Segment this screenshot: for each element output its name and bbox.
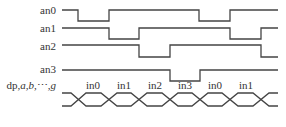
timing-diagram: an0 an1 an2 an3 dp,a,b,⋯,g in0 in1 in2 i… <box>0 0 286 127</box>
bus-label: dp,a,b,⋯,g <box>7 79 57 91</box>
bus-segment-label: in0 <box>208 79 223 91</box>
bus-segment-label: in2 <box>148 79 162 91</box>
signal-label-an1: an1 <box>40 22 56 34</box>
bus-segment-label: in1 <box>239 79 253 91</box>
bus-segment-label: in1 <box>117 79 131 91</box>
bus-waveform <box>62 93 278 106</box>
waveform-an2 <box>62 45 278 57</box>
timing-diagram-svg: an0 an1 an2 an3 dp,a,b,⋯,g in0 in1 in2 i… <box>0 0 286 127</box>
signal-label-an2: an2 <box>40 40 56 52</box>
bus-segment-label: in0 <box>86 79 101 91</box>
waveform-an0 <box>62 10 278 21</box>
bus-segment-label: in3 <box>178 79 193 91</box>
signal-label-an3: an3 <box>40 63 56 75</box>
signal-label-an0: an0 <box>40 4 56 16</box>
waveform-an1 <box>62 28 278 39</box>
